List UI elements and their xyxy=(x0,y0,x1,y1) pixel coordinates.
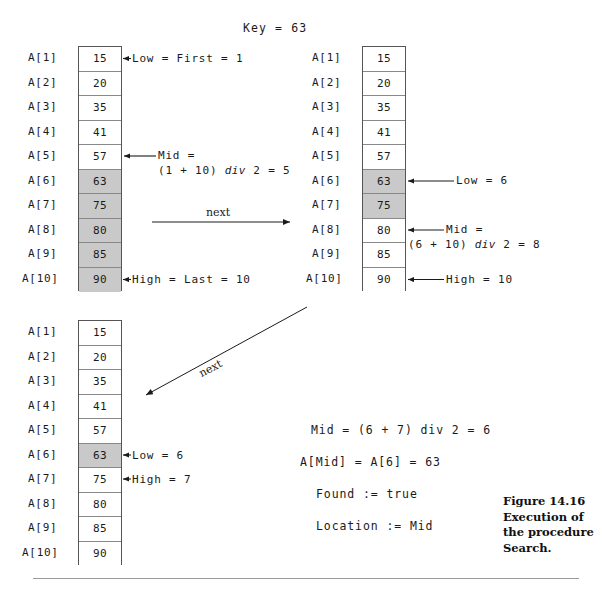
result-mid-line: Mid = (6 + 7) div 2 = 6 xyxy=(311,423,491,438)
array-index-label: A[9] xyxy=(312,242,341,267)
array-index-label: A[7] xyxy=(28,193,57,218)
mid-annotation-2: Mid = (6 + 10) div 2 = 8 xyxy=(446,222,540,252)
div-operator: div xyxy=(475,238,496,251)
array-cell: 85 xyxy=(79,517,121,542)
result-found-line: Found := true xyxy=(316,487,418,502)
array-index-label: A[1] xyxy=(28,320,57,345)
array-index-label: A[1] xyxy=(28,46,57,71)
array-cell: 20 xyxy=(79,72,121,97)
array-index-label: A[2] xyxy=(312,71,341,96)
array-step-3-table: 15 20 35 41 57 63 75 80 85 90 xyxy=(78,320,122,565)
result-mid-post: 2 = 6 xyxy=(444,423,491,437)
mid-annotation-1-line1: Mid = xyxy=(158,148,290,163)
array-cell: 35 xyxy=(79,370,121,395)
array-index-label: A[6] xyxy=(28,443,57,468)
array-cell: 57 xyxy=(79,419,121,444)
div-operator: div xyxy=(421,423,444,437)
array-index-label: A[5] xyxy=(312,144,341,169)
array-cell: 80 xyxy=(363,219,405,244)
array-index-label: A[7] xyxy=(28,467,57,492)
next-label-diagonal: next xyxy=(197,357,224,380)
bottom-divider xyxy=(33,578,579,579)
array-index-label: A[7] xyxy=(312,193,341,218)
array-cell: 80 xyxy=(79,493,121,518)
array-cell: 20 xyxy=(79,346,121,371)
mid-annotation-2-line2: (6 + 10) div 2 = 8 xyxy=(408,237,540,252)
array-index-label: A[6] xyxy=(28,169,57,194)
next-arrow-diagonal xyxy=(146,307,307,395)
result-mid-pre: Mid = (6 + 7) xyxy=(311,423,421,437)
array-index-label: A[1] xyxy=(312,46,341,71)
next-label-horizontal: next xyxy=(206,206,230,219)
array-cell: 80 xyxy=(79,219,121,244)
array-index-label: A[8] xyxy=(28,218,57,243)
array-index-label: A[9] xyxy=(28,242,57,267)
figure-key-title: Key = 63 xyxy=(243,21,307,35)
mid-expr-post: 2 = 5 xyxy=(246,164,291,177)
high-annotation-2: High = 10 xyxy=(446,272,513,287)
array-cell: 85 xyxy=(363,243,405,268)
array-index-label: A[3] xyxy=(28,369,57,394)
mid-expr-post: 2 = 8 xyxy=(496,238,541,251)
array-cell: 63 xyxy=(79,444,121,469)
array-cell: 15 xyxy=(79,47,121,72)
mid-expr-pre: (6 + 10) xyxy=(408,238,475,251)
array-cell: 20 xyxy=(363,72,405,97)
array-index-label: A[2] xyxy=(28,71,57,96)
array-cell: 90 xyxy=(79,268,121,293)
array-index-label: A[10] xyxy=(306,267,343,292)
figure-canvas: Key = 63 15 20 35 41 57 63 75 80 85 90 A… xyxy=(0,0,602,591)
array-cell: 41 xyxy=(363,121,405,146)
array-index-label: A[3] xyxy=(312,95,341,120)
array-index-label: A[8] xyxy=(312,218,341,243)
array-cell: 35 xyxy=(79,96,121,121)
array-index-label: A[5] xyxy=(28,144,57,169)
array-cell: 63 xyxy=(363,170,405,195)
mid-annotation-1: Mid = (1 + 10) div 2 = 5 xyxy=(158,148,290,178)
array-cell: 75 xyxy=(363,194,405,219)
array-cell: 57 xyxy=(363,145,405,170)
div-operator: div xyxy=(225,164,246,177)
mid-annotation-2-line1: Mid = xyxy=(446,222,540,237)
array-cell: 57 xyxy=(79,145,121,170)
mid-annotation-1-line2: (1 + 10) div 2 = 5 xyxy=(158,163,290,178)
mid-expr-pre: (1 + 10) xyxy=(158,164,225,177)
array-index-label: A[3] xyxy=(28,95,57,120)
array-cell: 41 xyxy=(79,395,121,420)
result-location-line: Location := Mid xyxy=(316,519,433,534)
array-index-label: A[9] xyxy=(28,516,57,541)
array-cell: 90 xyxy=(79,542,121,567)
array-cell: 75 xyxy=(79,194,121,219)
array-index-label: A[4] xyxy=(28,120,57,145)
low-annotation-2: Low = 6 xyxy=(456,173,508,188)
figure-caption: Figure 14.16 Execution of the procedure … xyxy=(503,494,598,556)
array-cell: 41 xyxy=(79,121,121,146)
array-index-label: A[2] xyxy=(28,345,57,370)
array-cell: 15 xyxy=(79,321,121,346)
array-cell: 63 xyxy=(79,170,121,195)
high-annotation-3: High = 7 xyxy=(132,472,191,487)
array-cell: 75 xyxy=(79,468,121,493)
array-step-2-table: 15 20 35 41 57 63 75 80 85 90 xyxy=(362,46,406,291)
array-index-label: A[10] xyxy=(22,541,59,566)
result-amid-line: A[Mid] = A[6] = 63 xyxy=(300,455,441,470)
high-annotation-1: High = Last = 10 xyxy=(132,272,251,287)
array-index-label: A[4] xyxy=(312,120,341,145)
array-cell: 85 xyxy=(79,243,121,268)
array-cell: 90 xyxy=(363,268,405,293)
low-annotation-3: Low = 6 xyxy=(132,448,184,463)
array-index-label: A[5] xyxy=(28,418,57,443)
array-cell: 15 xyxy=(363,47,405,72)
array-index-label: A[6] xyxy=(312,169,341,194)
array-index-label: A[10] xyxy=(22,267,59,292)
low-annotation-1: Low = First = 1 xyxy=(132,51,243,66)
array-index-label: A[4] xyxy=(28,394,57,419)
array-cell: 35 xyxy=(363,96,405,121)
array-step-1-table: 15 20 35 41 57 63 75 80 85 90 xyxy=(78,46,122,291)
array-index-label: A[8] xyxy=(28,492,57,517)
